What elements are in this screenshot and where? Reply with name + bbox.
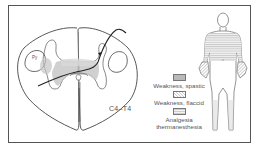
spastic-swatch-icon — [173, 74, 186, 81]
legend-label-line1: Analgesia — [165, 116, 192, 123]
body-figure — [0, 0, 259, 151]
flaccid-swatch-icon — [173, 91, 186, 98]
legend: Weakness, spastic Weakness, flaccid Anal… — [146, 74, 212, 132]
tract-label: Py — [32, 55, 37, 60]
legend-item-analgesia: Analgesia thermanesthesia — [146, 108, 212, 130]
segment-label: C4–T4 — [109, 105, 132, 112]
legend-label-line2: thermanesthesia — [156, 123, 202, 130]
legend-item-spastic: Weakness, spastic — [146, 74, 212, 89]
legend-item-flaccid: Weakness, flaccid — [146, 91, 212, 106]
legend-label: Weakness, flaccid — [154, 99, 204, 106]
legend-label: Weakness, spastic — [153, 82, 204, 89]
analgesia-swatch-icon — [173, 108, 186, 115]
